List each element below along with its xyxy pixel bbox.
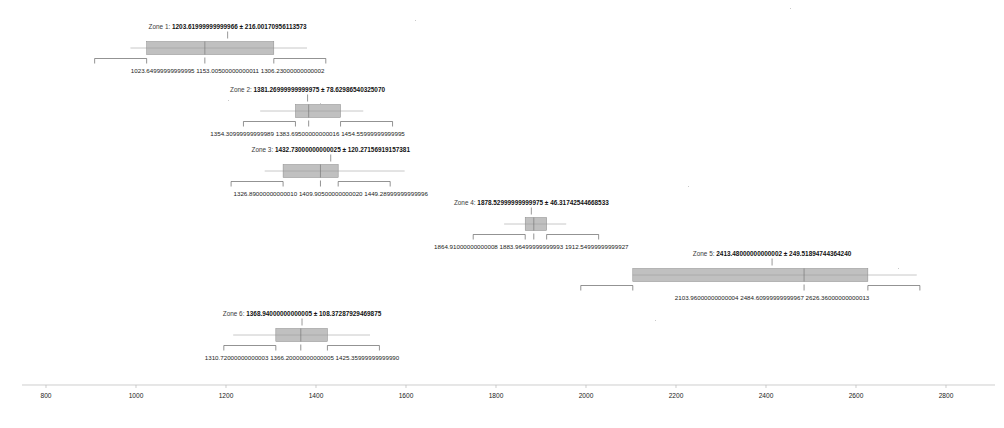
zone-value-labels: 1023.64999999999995 1153.00500000000011 … [131, 67, 325, 74]
zone-group-2[interactable]: Zone 2: 1381.26999999999975 ± 78.6298654… [210, 86, 405, 137]
upper-bracket [547, 235, 599, 240]
zone-value-label: 1153.00500000000011 [195, 67, 260, 74]
zone-title: Zone 5: 2413.48000000000002 ± 249.518947… [693, 250, 852, 257]
zone-value-label: 1383.69500000000016 [274, 130, 340, 137]
zone-value-labels: 1864.91000000000008 1883.96499999999993 … [434, 243, 629, 250]
box-body[interactable] [147, 42, 274, 55]
lower-bracket [243, 122, 295, 127]
axis-tick-label: 800 [40, 392, 51, 399]
box-body[interactable] [525, 218, 546, 231]
zone-value-labels: 1354.30999999999989 1383.69500000000016 … [210, 130, 405, 137]
box-body[interactable] [295, 105, 340, 118]
zone-value-label: 2626.36000000000013 [804, 294, 870, 301]
upper-bracket [868, 286, 920, 291]
zone-value-label: 1449.28999999999996 [363, 190, 429, 197]
zone-value-label: 1912.54999999999927 [563, 243, 629, 250]
axis-tick-label: 1400 [309, 392, 324, 399]
zone-title: Zone 6: 1368.94000000000005 ± 108.372879… [223, 310, 382, 317]
chart-canvas: Zone 1: 1203.61999999999966 ± 216.001709… [0, 0, 1004, 428]
upper-bracket [338, 182, 390, 187]
lower-bracket [581, 286, 633, 291]
box-body[interactable] [276, 329, 328, 342]
scan-speck [790, 8, 791, 9]
zone-title: Zone 2: 1381.26999999999975 ± 78.6298654… [230, 86, 385, 93]
zone-value-label: 1883.96499999999993 [498, 243, 564, 250]
axis-tick-label: 2400 [759, 392, 774, 399]
zone-value-label: 2103.96000000000004 [675, 294, 739, 301]
zone-value-label: 1306.23000000000002 [259, 67, 325, 74]
zone-value-label: 1409.90500000000020 [297, 190, 363, 197]
lower-bracket [231, 182, 283, 187]
zone-group-1[interactable]: Zone 1: 1203.61999999999966 ± 216.001709… [95, 23, 326, 74]
scan-speck [898, 268, 899, 269]
zone-distribution-plot: Zone 1: 1203.61999999999966 ± 216.001709… [0, 0, 1004, 428]
scan-speck [655, 320, 656, 321]
upper-bracket [327, 346, 379, 351]
zone-title: Zone 1: 1203.61999999999966 ± 216.001709… [149, 23, 308, 30]
zone-group-6[interactable]: Zone 6: 1368.94000000000005 ± 108.372879… [205, 310, 400, 361]
axis-tick-label: 2600 [849, 392, 864, 399]
axis-tick-label: 2800 [939, 392, 954, 399]
zone-value-labels: 1326.89000000000010 1409.90500000000020 … [234, 190, 429, 197]
axis-tick-label: 2200 [669, 392, 684, 399]
box-body[interactable] [283, 165, 338, 178]
axis-tick-label: 1000 [129, 392, 144, 399]
upper-bracket [341, 122, 393, 127]
zone-value-labels: 1310.72000000000003 1366.20000000000005 … [205, 354, 400, 361]
zone-group-4[interactable]: Zone 4: 1878.52999999999975 ± 46.3174254… [434, 199, 629, 250]
zone-value-label: 2484.60999999999967 [739, 294, 805, 301]
zone-value-label: 1354.30999999999989 [210, 130, 274, 137]
zone-group-3[interactable]: Zone 3: 1432.73000000000025 ± 120.271569… [231, 146, 428, 197]
zone-value-label: 1864.91000000000008 [434, 243, 498, 250]
zone-value-label: 1454.55999999999995 [339, 130, 405, 137]
zone-value-labels: 2103.96000000000004 2484.60999999999967 … [675, 294, 870, 301]
x-axis: 8001000120014001600180020002200240026002… [22, 385, 995, 399]
scan-speck [320, 103, 321, 104]
axis-tick-label: 1200 [219, 392, 234, 399]
zone-value-label: 1326.89000000000010 [234, 190, 298, 197]
axis-tick-label: 2000 [579, 392, 594, 399]
zone-title: Zone 4: 1878.52999999999975 ± 46.3174254… [454, 199, 609, 206]
scan-speck [688, 186, 689, 187]
scan-speck [228, 100, 229, 101]
axis-tick-label: 1600 [399, 392, 414, 399]
zone-value-label: 1310.72000000000003 [205, 354, 269, 361]
scan-speck [415, 20, 416, 21]
lower-bracket [473, 235, 525, 240]
zone-value-label: 1425.35999999999990 [334, 354, 400, 361]
zone-title: Zone 3: 1432.73000000000025 ± 120.271569… [251, 146, 410, 153]
zones-layer: Zone 1: 1203.61999999999966 ± 216.001709… [95, 23, 920, 361]
zone-value-label: 1023.64999999999995 [131, 67, 195, 74]
box-body[interactable] [633, 269, 868, 282]
lower-bracket [224, 346, 276, 351]
lower-bracket [95, 59, 147, 64]
upper-bracket [274, 59, 326, 64]
axis-tick-label: 1800 [489, 392, 504, 399]
zone-group-5[interactable]: Zone 5: 2413.48000000000002 ± 249.518947… [581, 250, 920, 301]
zone-value-label: 1366.20000000000005 [268, 354, 334, 361]
